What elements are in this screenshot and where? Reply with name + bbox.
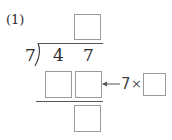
- division-bar: [38, 43, 103, 44]
- subtraction-line: [36, 101, 103, 102]
- product-ones-answer-box[interactable]: [75, 71, 102, 98]
- multiplier-answer-box[interactable]: [143, 73, 166, 96]
- divisor: 7: [25, 46, 36, 64]
- dividend-digit-tens: 4: [53, 46, 64, 64]
- product-tens-answer-box[interactable]: [45, 71, 72, 98]
- problem-number-label: (1): [6, 13, 24, 27]
- multiplier: 7: [121, 75, 131, 93]
- quotient-answer-box[interactable]: [74, 14, 101, 40]
- arrow-left-icon: [101, 80, 121, 88]
- dividend-digit-ones: 7: [83, 46, 94, 64]
- remainder-answer-box[interactable]: [74, 105, 101, 132]
- times-sign: ×: [131, 76, 142, 92]
